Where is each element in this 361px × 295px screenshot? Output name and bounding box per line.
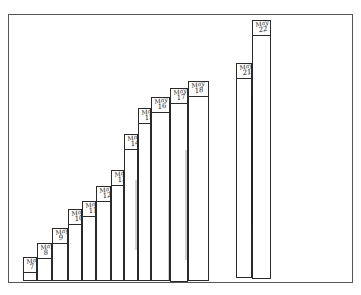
strip-may-7: May7 [23,257,37,281]
strip-label: May10 [71,209,83,224]
strip-may-18: May18 [188,81,209,281]
strip-may-21: May21 [236,63,252,278]
strip-label: May12 [99,186,111,201]
strip-label: May21 [239,63,252,78]
strip-may-22: May22 [252,20,271,279]
shading-mark [135,180,137,250]
strip-may-10: May10 [68,209,82,281]
strip-label: May17 [173,87,188,102]
strip-may-9: May9 [52,228,68,281]
strip-label: May14 [127,134,139,149]
shading-mark [185,150,187,260]
strip-label: May11 [85,201,97,216]
strip-label: May13 [114,170,125,184]
strip-group: May7 May8 May9 May10 May11 May12 May13 M… [0,0,361,295]
strip-label: May15 [141,108,152,122]
strip-may-11: May11 [82,201,96,281]
strip-may-15: May15 [138,108,151,281]
shading-mark [251,95,253,225]
strip-may-13: May13 [111,170,124,281]
strip-may-12: May12 [96,186,111,281]
strip-label: May7 [26,257,38,272]
strip-label: May9 [55,228,68,243]
shading-mark [168,200,170,280]
strip-label: May8 [40,243,52,258]
strip-may-8: May8 [37,243,52,281]
